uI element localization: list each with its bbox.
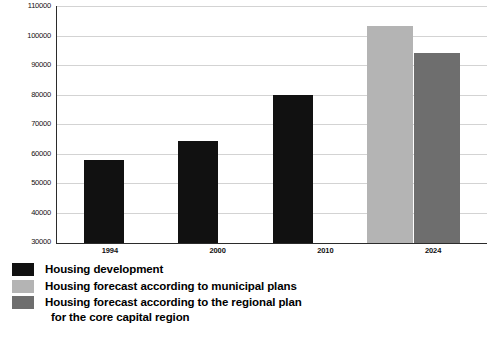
y-axis: 110000 100000 90000 80000 70000 60000 50…	[8, 6, 54, 244]
y-tick-label: 50000	[31, 179, 51, 187]
legend-label-block: Housing forecast according to the region…	[45, 295, 302, 324]
bar-regional-plan-2024[interactable]	[414, 53, 460, 243]
bar-municipal-plans-2024[interactable]	[367, 26, 413, 243]
bar-housing-development-2010[interactable]	[273, 95, 313, 243]
bar-group-2000	[178, 6, 218, 243]
bar-group-1994	[84, 6, 124, 243]
bar-housing-development-1994[interactable]	[84, 160, 124, 243]
legend-swatch-icon	[12, 263, 34, 276]
legend-label: Housing forecast according to municipal …	[45, 279, 297, 294]
chart-page: 110000 100000 90000 80000 70000 60000 50…	[0, 0, 495, 364]
legend-item-regional-plan: Housing forecast according to the region…	[12, 295, 482, 324]
chart-legend: Housing development Housing forecast acc…	[12, 262, 482, 326]
x-tick-label-1994: 1994	[65, 246, 155, 260]
y-tick-label: 110000	[28, 2, 51, 10]
chart-plot-area: 110000 100000 90000 80000 70000 60000 50…	[8, 6, 487, 244]
bar-groups	[57, 6, 487, 243]
y-tick-label: 100000	[27, 32, 51, 40]
x-tick-label-2010: 2010	[280, 246, 370, 260]
x-tick-label-2000: 2000	[173, 246, 263, 260]
x-tick-label-2024: 2024	[388, 246, 478, 260]
bar-housing-development-2000[interactable]	[178, 141, 218, 243]
y-tick-label: 60000	[31, 150, 51, 158]
legend-label-line2: for the core capital region	[45, 310, 302, 325]
legend-swatch-icon	[12, 296, 34, 309]
legend-label: Housing development	[45, 262, 163, 277]
bar-group-2024	[367, 6, 460, 243]
y-tick-label: 80000	[31, 91, 51, 99]
legend-item-housing-development: Housing development	[12, 262, 482, 277]
bar-group-2010	[273, 6, 313, 243]
plot-canvas	[56, 6, 487, 244]
legend-swatch-icon	[12, 280, 34, 293]
legend-label: Housing forecast according to the region…	[45, 296, 302, 308]
legend-item-municipal-plans: Housing forecast according to municipal …	[12, 279, 482, 294]
y-tick-label: 40000	[31, 209, 51, 217]
x-axis: 1994 2000 2010 2024	[56, 246, 487, 260]
y-tick-label: 90000	[31, 61, 51, 69]
y-tick-label: 70000	[31, 120, 51, 128]
y-tick-label: 30000	[31, 238, 51, 246]
